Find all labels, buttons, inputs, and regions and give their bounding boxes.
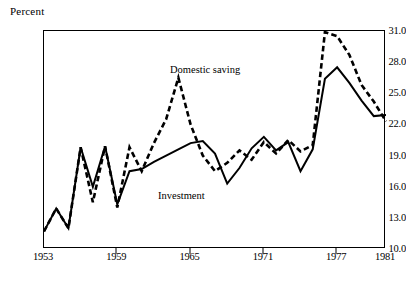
plot-area [43, 30, 385, 248]
chart-figure: Percent 31.028.025.022.019.016.013.010.0… [0, 0, 406, 282]
data-series-domestic-saving [44, 32, 386, 231]
x-axis-tick-label: 1953 [33, 251, 53, 262]
y-axis-title: Percent [10, 5, 44, 17]
series-label-domestic-saving: Domestic saving [170, 64, 240, 75]
data-series-investment [44, 67, 386, 231]
x-axis-tick-label: 1981 [375, 251, 395, 262]
series-label-investment: Investment [158, 190, 205, 201]
